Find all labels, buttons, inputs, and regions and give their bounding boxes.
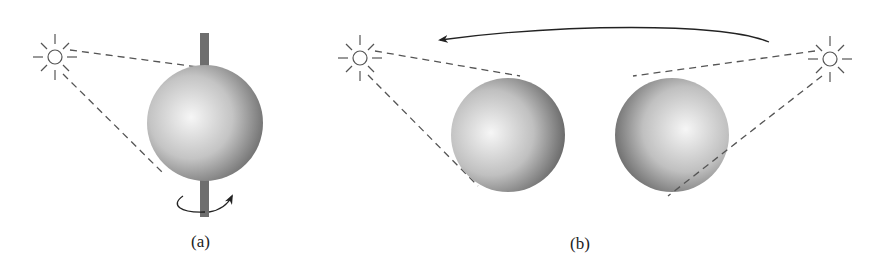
sphere-right xyxy=(615,78,729,192)
sun-icon xyxy=(808,36,852,82)
panel-a xyxy=(33,33,263,217)
sphere-left xyxy=(451,78,565,192)
panel-b-label: (b) xyxy=(570,234,590,254)
motion-arc-arrow-icon xyxy=(440,28,769,43)
sun-icon xyxy=(338,35,382,81)
figure-canvas xyxy=(0,0,878,273)
sun-icon xyxy=(33,34,77,80)
panel-b xyxy=(338,28,852,197)
panel-a-label: (a) xyxy=(191,232,210,252)
sphere xyxy=(147,65,263,181)
